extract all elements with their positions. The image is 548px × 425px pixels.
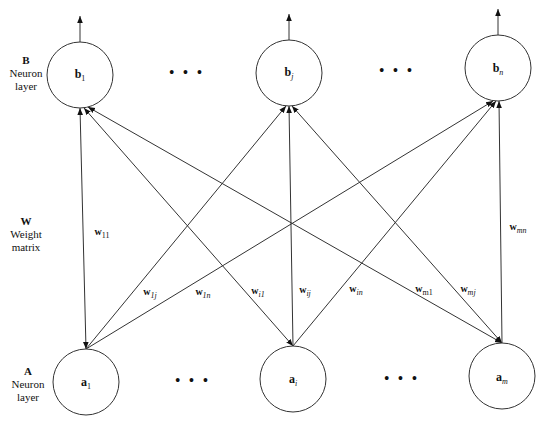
layer-b-line2: layer [15,80,37,92]
weight-label-wmj: wmj [460,283,475,297]
node-bj-base: b [285,65,292,79]
layer-letter-a: A [6,365,50,378]
weight-label-wij: wij [299,284,311,298]
w1n-sub: 1n [203,291,211,300]
weight-label-w1n: w1n [195,286,210,300]
weight-label-wm1: wm1 [415,283,432,297]
node-bj-sub: j [291,72,293,81]
node-bn-base: b [493,61,500,75]
layer-letter-w: W [4,215,48,228]
edge-wmj [292,106,502,343]
layer-w-line1: Weight [10,228,42,240]
win-sub: in [357,288,363,297]
w11-sub: 11 [102,231,110,240]
edge-wi1 [84,108,293,346]
layer-a-line2: layer [17,391,39,403]
edge-wmn [499,101,502,343]
network-diagram [0,0,548,425]
wmj-sub: mj [468,288,476,297]
weight-label-wmn: wmn [509,221,526,235]
node-label-am: am [496,370,508,386]
layer-letter-b: B [4,54,48,67]
wij-sub: ij [306,289,310,298]
edge-w1j [86,106,286,349]
edge-win [293,101,496,346]
node-bn-sub: n [499,68,503,77]
wm1-sub: m1 [423,288,433,297]
wi1-sub: i1 [259,290,265,299]
wmn-sub: mn [517,226,527,235]
layer-label-a: A Neuron layer [6,365,50,404]
edge-w11 [80,108,86,349]
node-ai-sub: i [295,379,297,388]
node-label-b1: b1 [75,67,86,83]
layer-label-w: W Weight matrix [4,215,48,254]
layer-w-line2: matrix [12,241,41,253]
ellipsis-a-right: ••• [384,371,426,387]
node-a1-sub: 1 [87,382,91,391]
node-am-sub: m [502,377,508,386]
w1j-sub: 1j [151,291,157,300]
layer-label-b: B Neuron layer [4,54,48,93]
node-label-a1: a1 [81,375,91,391]
edge-wm1 [88,107,502,343]
ellipsis-b-left: ••• [169,65,211,81]
weight-label-w11: w11 [95,226,110,240]
ellipsis-a-left: ••• [175,373,217,389]
layer-b-line1: Neuron [10,67,43,79]
node-label-bj: bj [285,65,294,81]
layer-a-line1: Neuron [12,378,45,390]
ellipsis-b-right: ••• [379,63,421,79]
weight-label-w1j: w1j [143,286,156,300]
edge-wij [289,106,293,346]
weight-label-wi1: wi1 [251,285,264,299]
node-b1-base: b [75,67,82,81]
weight-label-win: win [349,283,362,297]
node-label-ai: ai [289,372,297,388]
node-b1-sub: 1 [81,74,85,83]
node-label-bn: bn [493,61,504,77]
